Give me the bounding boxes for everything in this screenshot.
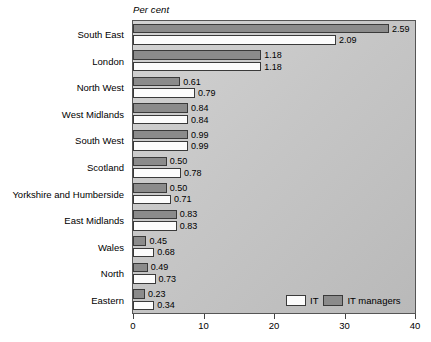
bar-value-label-it: 0.78: [184, 168, 202, 178]
bar-value-label-it-managers: 0.84: [191, 103, 209, 113]
bar-value-label-it-managers: 0.50: [170, 156, 188, 166]
x-axis-tick: [204, 314, 205, 319]
bar-it: [133, 195, 171, 205]
bar-value-label-it-managers: 0.83: [180, 209, 198, 219]
bar-it: [133, 115, 188, 125]
bar-it-managers: [133, 103, 188, 113]
category-label-wales: Wales: [98, 241, 124, 252]
legend-item-it-managers: IT managers: [323, 295, 400, 306]
category-label-north-west: North West: [77, 82, 124, 93]
x-axis-tick-label: 0: [130, 320, 135, 331]
bar-it-managers: [133, 236, 146, 246]
bar-value-label-it: 0.99: [191, 141, 209, 151]
category-label-yorkshire-and-humberside: Yorkshire and Humberside: [12, 188, 124, 199]
bar-it-managers: [133, 210, 177, 220]
category-label-eastern: Eastern: [91, 294, 124, 305]
bar-value-label-it-managers: 0.99: [191, 130, 209, 140]
x-axis-tick: [274, 314, 275, 319]
x-axis-tick: [133, 314, 134, 319]
bar-value-label-it: 0.73: [159, 274, 177, 284]
bar-it: [133, 301, 154, 311]
x-axis-tick-label: 10: [198, 320, 209, 331]
bar-it-managers: [133, 157, 167, 167]
axis-unit-caption: Per cent: [133, 4, 169, 15]
bar-value-label-it: 0.83: [180, 221, 198, 231]
bar-value-label-it-managers: 2.59: [392, 24, 410, 34]
x-axis-tick-label: 20: [269, 320, 280, 331]
plot-area: 2.592.091.181.180.610.790.840.840.990.99…: [132, 20, 416, 314]
bar-it: [133, 221, 177, 231]
bar-value-label-it-managers: 0.61: [183, 77, 201, 87]
bar-it-managers: [133, 77, 180, 87]
bar-value-label-it: 2.09: [339, 35, 357, 45]
category-label-south-west: South West: [75, 135, 124, 146]
legend-label: IT managers: [347, 295, 400, 306]
bar-it: [133, 274, 156, 284]
category-label-east-midlands: East Midlands: [64, 215, 124, 226]
bar-value-label-it-managers: 0.49: [151, 262, 169, 272]
bar-it-managers: [133, 289, 145, 299]
bar-it: [133, 168, 181, 178]
x-axis-tick-label: 40: [410, 320, 421, 331]
category-label-london: London: [92, 55, 124, 66]
legend-swatch-icon: [323, 295, 343, 306]
bar-it-managers: [133, 130, 188, 140]
bar-value-label-it: 0.34: [157, 300, 175, 310]
x-axis-tick: [345, 314, 346, 319]
bar-it-managers: [133, 50, 261, 60]
bar-value-label-it: 0.68: [157, 247, 175, 257]
chart-legend: ITIT managers: [284, 292, 403, 309]
bar-it: [133, 248, 154, 258]
bar-it-managers: [133, 183, 167, 193]
legend-item-it: IT: [286, 295, 318, 306]
category-label-south-east: South East: [78, 29, 124, 40]
bar-it: [133, 88, 195, 98]
x-axis-tick-label: 30: [339, 320, 350, 331]
legend-label: IT: [310, 295, 318, 306]
category-label-north: North: [101, 268, 124, 279]
bar-it-managers: [133, 263, 148, 273]
bar-it: [133, 141, 188, 151]
bar-value-label-it-managers: 1.18: [264, 50, 282, 60]
bar-value-label-it: 0.71: [174, 194, 192, 204]
category-label-west-midlands: West Midlands: [62, 108, 124, 119]
bar-it: [133, 62, 261, 72]
x-axis-tick: [415, 314, 416, 319]
bar-value-label-it: 0.84: [191, 115, 209, 125]
category-axis-labels: South EastLondonNorth WestWest MidlandsS…: [0, 20, 128, 314]
bar-value-label-it-managers: 0.23: [148, 289, 166, 299]
legend-swatch-icon: [286, 295, 306, 306]
regional-it-employment-bar-chart: Per cent South EastLondonNorth WestWest …: [0, 0, 431, 342]
category-label-scotland: Scotland: [87, 162, 124, 173]
bar-value-label-it-managers: 0.45: [149, 236, 167, 246]
bar-value-label-it: 0.79: [198, 88, 216, 98]
bar-it: [133, 35, 336, 45]
bar-value-label-it-managers: 0.50: [170, 183, 188, 193]
bar-it-managers: [133, 24, 389, 34]
x-axis: 010203040: [132, 314, 416, 340]
bar-value-label-it: 1.18: [264, 62, 282, 72]
